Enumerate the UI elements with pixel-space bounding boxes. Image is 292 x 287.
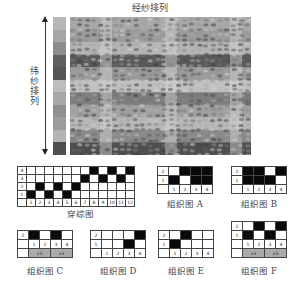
grid-cell [113, 231, 124, 240]
strip-band [53, 117, 66, 130]
grid-cell [99, 175, 108, 183]
grid-cell [169, 176, 180, 185]
weave-caption-f: 组织图 F [226, 264, 292, 276]
row-label: 2 [158, 167, 169, 176]
col-label: 1 [170, 249, 181, 258]
col-label: 4 [276, 240, 287, 249]
weft-axis-line [45, 20, 46, 150]
row-label: 2 [232, 167, 243, 176]
grid-cell [254, 176, 265, 185]
weave-caption-e: 组织图 E [153, 264, 219, 276]
col-label: 12 [126, 199, 135, 207]
corner-cell [232, 185, 243, 194]
corner-cell [91, 249, 102, 258]
row-label: 1 [158, 176, 169, 185]
weave-diagram-a: 211234 [157, 166, 213, 194]
strip-band [53, 30, 66, 43]
col-label: 4 [54, 199, 63, 207]
col-label: 1 [29, 240, 40, 249]
grid-cell [51, 231, 62, 240]
grid-cell [254, 231, 265, 240]
grid-cell [243, 167, 254, 176]
repeat-multiplier: x3 [29, 249, 51, 258]
grid-cell [45, 191, 54, 199]
grid-cell [36, 167, 45, 175]
strip-band [53, 17, 66, 30]
weave-diagram-b: 211234 [231, 166, 287, 194]
col-label: 4 [135, 249, 146, 258]
row-label: 2 [91, 231, 102, 240]
grid-cell [117, 175, 126, 183]
grid-cell [90, 191, 99, 199]
corner-cell [18, 240, 29, 249]
arrow-down-icon [42, 149, 48, 155]
grid-cell [108, 191, 117, 199]
strip-band [53, 92, 66, 105]
grid-cell [90, 175, 99, 183]
grid-cell [124, 231, 135, 240]
grid-cell [202, 167, 213, 176]
grid-cell [62, 231, 73, 240]
grid-cell [54, 175, 63, 183]
grid-cell [40, 231, 51, 240]
corner-cell [159, 249, 170, 258]
col-label: 8 [90, 199, 99, 207]
grid-cell [63, 183, 72, 191]
corner-cell [158, 185, 169, 194]
grid-cell [27, 167, 36, 175]
grid-cell [27, 175, 36, 183]
row-label: 1 [91, 240, 102, 249]
grid-cell [126, 167, 135, 175]
grid-cell [169, 167, 180, 176]
col-label: 5 [63, 199, 72, 207]
strip-band [53, 130, 66, 143]
warp-arrangement-title: 经纱排列 [110, 1, 190, 14]
corner-cell [18, 199, 27, 207]
weave-diagram-c: 11234x3x3 [17, 230, 73, 258]
grid-cell [276, 231, 287, 240]
grid-cell [36, 175, 45, 183]
grid-cell [36, 183, 45, 191]
row-label: 1 [159, 240, 170, 249]
grid-cell [45, 175, 54, 183]
grid-cell [243, 176, 254, 185]
weave-caption-b: 组织图 B [231, 197, 287, 209]
col-label: 4 [276, 185, 287, 194]
grid-cell [72, 183, 81, 191]
grid-cell [243, 222, 254, 231]
weft-arrangement-label: 纬纱排列 [28, 64, 41, 108]
grid-cell [243, 231, 254, 240]
col-label: 4 [203, 249, 214, 258]
corner-cell [232, 249, 243, 258]
col-label: 2 [113, 249, 124, 258]
col-label: 7 [81, 199, 90, 207]
grid-cell [126, 191, 135, 199]
drafting-caption: 穿综图 [50, 207, 110, 219]
grid-cell [265, 231, 276, 240]
grid-cell [63, 191, 72, 199]
grid-cell [81, 175, 90, 183]
grid-cell [54, 191, 63, 199]
grid-cell [81, 191, 90, 199]
grid-cell [72, 167, 81, 175]
col-label: 2 [40, 240, 51, 249]
grid-cell [81, 183, 90, 191]
grid-cell [99, 167, 108, 175]
weft-color-strip [53, 17, 66, 155]
grid-cell [45, 183, 54, 191]
grid-cell [36, 191, 45, 199]
weave-diagram-d: 211234 [90, 230, 146, 258]
grid-cell [99, 183, 108, 191]
grid-cell [191, 167, 202, 176]
row-label: 1 [18, 231, 29, 240]
grid-cell [276, 167, 287, 176]
col-label: 3 [124, 249, 135, 258]
grid-cell [108, 183, 117, 191]
strip-band [53, 67, 66, 80]
grid-cell [27, 191, 36, 199]
grid-cell [90, 167, 99, 175]
grid-cell [203, 240, 214, 249]
grid-cell [63, 175, 72, 183]
col-label: 3 [191, 185, 202, 194]
grid-cell [54, 183, 63, 191]
